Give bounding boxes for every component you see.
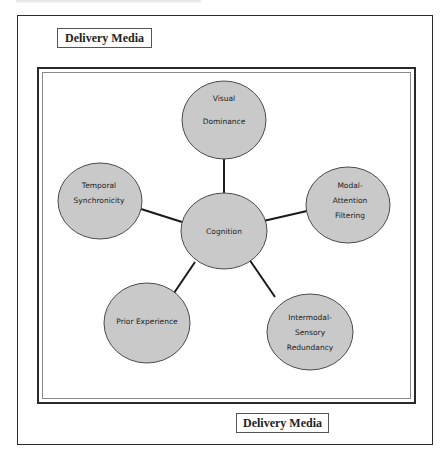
node-visual-dominance: Visual Dominance: [182, 81, 266, 159]
connector-intermodal-sensory-redundancy: [249, 259, 275, 297]
cognition-radial-diagram: Visual Dominance Modal- Attention Filter…: [0, 0, 448, 461]
node-label-line: Visual: [213, 94, 235, 103]
node-label-line: Attention: [333, 196, 368, 205]
connector-prior-experience: [172, 262, 195, 296]
connector-temporal-synchronicity: [141, 209, 182, 222]
node-temporal-synchronicity: Temporal Synchronicity: [58, 163, 142, 239]
node-label-line: Filtering: [335, 211, 365, 220]
node-label-line: Prior Experience: [116, 317, 178, 326]
node-label-line: Dominance: [203, 117, 246, 126]
connector-modal-attention-filtering: [259, 211, 307, 222]
node-label-line: Modal-: [337, 181, 363, 190]
node-prior-experience: Prior Experience: [104, 283, 190, 363]
node-label-line: Redundancy: [287, 343, 334, 352]
node-label-line: Intermodal-: [288, 313, 332, 322]
node-cognition-center: Cognition: [181, 193, 267, 269]
node-label-line: Temporal: [81, 181, 116, 190]
node-label-line: Cognition: [206, 227, 242, 236]
delivery-media-label-bottom: Delivery Media: [236, 413, 329, 433]
node-modal-attention-filtering: Modal- Attention Filtering: [306, 167, 390, 243]
node-label-line: Synchronicity: [74, 196, 125, 205]
node-intermodal-sensory-redundancy: Intermodal- Sensory Redundancy: [267, 294, 353, 370]
node-label-line: Sensory: [295, 328, 326, 337]
